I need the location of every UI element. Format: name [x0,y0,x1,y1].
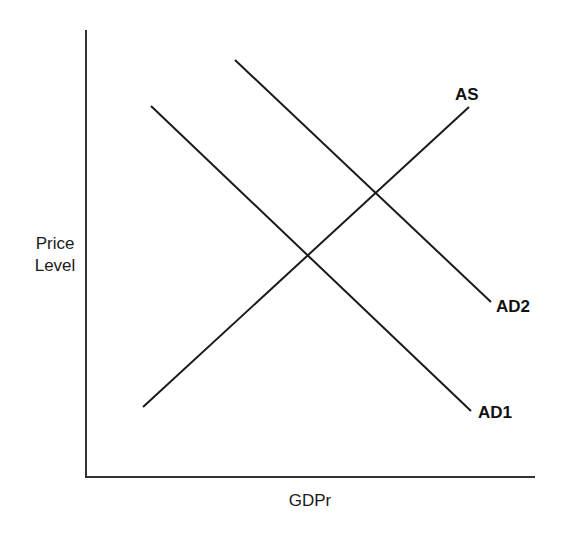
ad2-label: AD2 [496,297,530,316]
y-axis-title-line2: Level [35,256,76,275]
ad-as-diagram: Price Level GDPr AS AD1 AD2 [0,0,565,545]
ad1-label: AD1 [478,403,512,422]
ad1-curve [151,106,471,411]
as-label: AS [455,85,479,104]
y-axis-title-line1: Price [36,234,75,253]
x-axis-title: GDPr [289,491,332,510]
ad2-curve [235,60,491,302]
